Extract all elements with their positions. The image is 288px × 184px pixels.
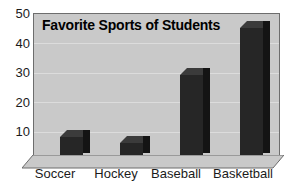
x-axis: Soccer Hockey Baseball Basketball <box>0 166 288 184</box>
bar-side-face <box>263 21 270 153</box>
y-tick-label: 10 <box>4 125 30 138</box>
plot-area: Favorite Sports of Students <box>33 13 280 161</box>
x-tick-label: Hockey <box>85 166 147 181</box>
y-tick-label: 40 <box>4 37 30 50</box>
x-tick-label: Soccer <box>24 166 86 181</box>
bar-side-face <box>143 136 150 153</box>
bar-front-face <box>240 28 263 160</box>
bar-front-face <box>180 75 203 160</box>
y-tick-label: 20 <box>4 96 30 109</box>
bar-side-face <box>203 68 210 153</box>
x-tick-label: Basketball <box>203 166 283 181</box>
x-tick-label: Baseball <box>143 166 209 181</box>
y-tick-label: 50 <box>4 7 30 20</box>
bar-side-face <box>83 130 90 153</box>
bar-chart: 50 40 30 20 10 Favorite Sports of Studen… <box>0 0 288 184</box>
bar-baseball <box>180 68 203 160</box>
chart-title: Favorite Sports of Students <box>42 17 220 33</box>
bar-basketball <box>240 21 263 160</box>
y-tick-label: 30 <box>4 66 30 79</box>
